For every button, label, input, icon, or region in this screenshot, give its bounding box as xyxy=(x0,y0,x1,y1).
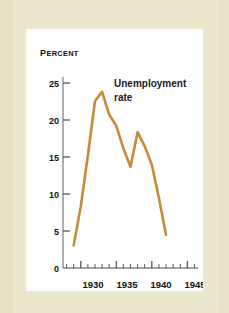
series-annotation-line2: rate xyxy=(114,92,133,103)
y-axis-ticks xyxy=(63,83,70,231)
x-axis-ticks xyxy=(67,261,195,268)
y-tick-label-25: 25 xyxy=(49,79,59,89)
paper-tint-left-band xyxy=(0,0,14,313)
y-tick-label-20: 20 xyxy=(49,116,59,126)
y-tick-label-15: 15 xyxy=(49,153,59,163)
paper-tint-right-band xyxy=(219,0,229,313)
unemployment-rate-line xyxy=(74,92,166,246)
chart-panel: P ERCENT 25 20 15 10 5 0 xyxy=(26,29,203,291)
x-tick-label-1940: 1940 xyxy=(150,279,171,290)
y-axis-tick-labels: 25 20 15 10 5 0 xyxy=(49,79,59,274)
x-tick-label-1935: 1935 xyxy=(116,279,138,290)
x-axis-tick-labels: 1930 1935 1940 1945 xyxy=(82,279,203,290)
y-tick-label-10: 10 xyxy=(49,190,59,200)
figure-root: P ERCENT 25 20 15 10 5 0 xyxy=(0,0,229,313)
series-annotation-line1: Unemployment xyxy=(114,78,187,89)
y-tick-label-5: 5 xyxy=(54,227,59,237)
y-axis-label-first-letter: P xyxy=(40,48,46,58)
y-axis-label-rest: ERCENT xyxy=(47,49,79,58)
x-tick-label-1945: 1945 xyxy=(184,279,203,290)
unemployment-line-chart: P ERCENT 25 20 15 10 5 0 xyxy=(26,29,203,291)
x-tick-label-1930: 1930 xyxy=(82,279,103,290)
y-tick-label-0: 0 xyxy=(54,264,59,274)
